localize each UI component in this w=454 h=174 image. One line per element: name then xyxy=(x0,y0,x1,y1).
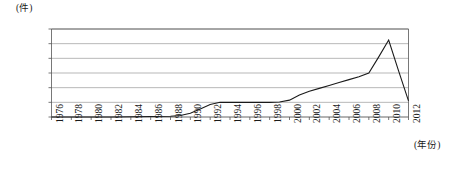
data-series-line xyxy=(52,40,409,117)
line-chart: (件) 120001000080006000400020000 19761978… xyxy=(0,0,454,174)
gridlines xyxy=(52,29,409,117)
plot-area xyxy=(0,0,454,174)
y-tick-marks xyxy=(49,29,52,117)
